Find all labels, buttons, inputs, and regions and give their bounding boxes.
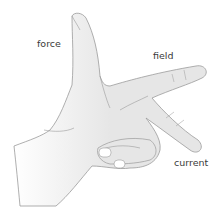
hand-illustration [0, 0, 218, 216]
force-label: force [37, 38, 61, 49]
fingernail [99, 148, 111, 157]
field-label: field [153, 50, 174, 61]
current-label: current [174, 157, 208, 168]
fingernail [114, 160, 125, 168]
